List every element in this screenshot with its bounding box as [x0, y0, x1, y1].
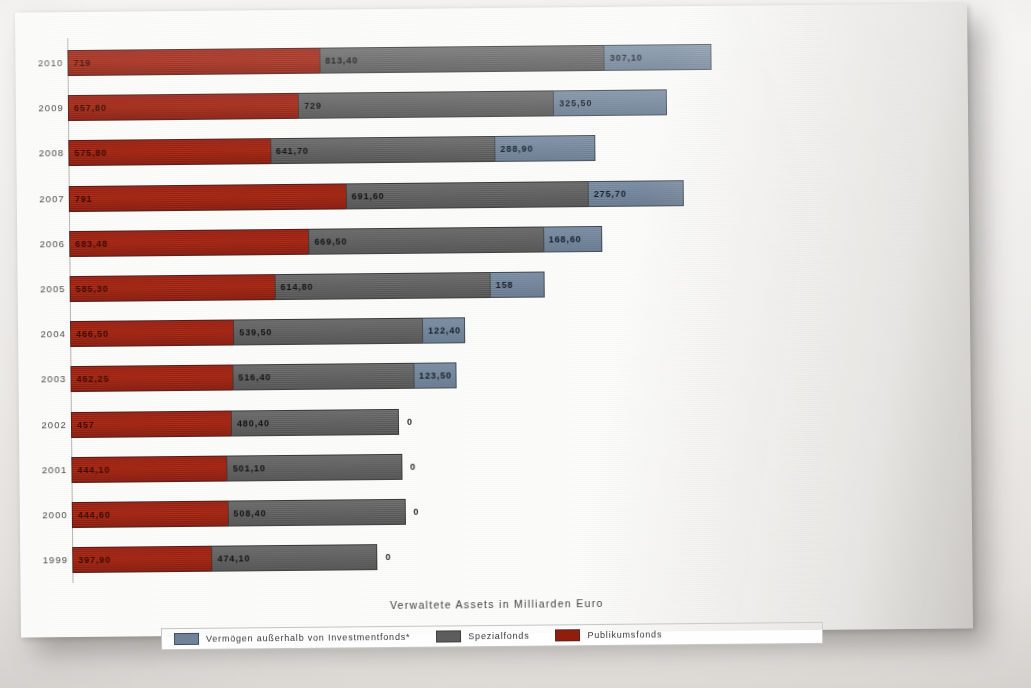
y-axis-label-2010: 2010: [17, 50, 63, 76]
bar-value-label: 480,40: [232, 418, 270, 428]
y-axis-label-2000: 2000: [22, 502, 68, 528]
bar-row: 444,60508,400: [72, 499, 419, 528]
bar-segment-blue[interactable]: 275,70: [588, 180, 685, 207]
bar-segment-grey[interactable]: 508,40: [227, 499, 405, 527]
bar-row: 719813,40307,10: [67, 44, 711, 76]
bar-segment-red[interactable]: 457: [71, 410, 231, 438]
bar-value-label: 641,70: [271, 146, 309, 156]
bar-value-label-zero: 0: [405, 499, 419, 525]
bar-segment-red[interactable]: 575,80: [68, 139, 270, 167]
bar-segment-red[interactable]: 466,50: [70, 320, 234, 348]
bar-row: 457480,400: [71, 408, 413, 437]
y-axis-label-2004: 2004: [20, 321, 66, 347]
legend-item-vermoegen[interactable]: Vermögen außerhalb von Investmentfonds*: [174, 631, 410, 645]
legend-item-spezialfonds[interactable]: Spezialfonds: [436, 630, 529, 643]
y-axis-label-1999: 1999: [22, 547, 68, 573]
bar-row: 462,25516,40123,50: [70, 363, 456, 393]
bar-value-label: 575,80: [69, 148, 107, 158]
y-axis-label-2009: 2009: [18, 95, 64, 121]
bar-value-label: 122,40: [423, 326, 461, 336]
bar-value-label: 791: [70, 193, 93, 203]
y-axis-label-2007: 2007: [19, 186, 65, 212]
y-axis-label-2005: 2005: [20, 276, 66, 302]
bar-row: 575,80641,70288,90: [68, 135, 595, 166]
bar-segment-red[interactable]: 444,10: [71, 455, 227, 482]
legend-swatch-grey-icon: [436, 630, 461, 642]
bar-segment-blue[interactable]: 158: [490, 272, 546, 299]
x-axis-title: Verwaltete Assets in Milliarden Euro: [21, 593, 973, 614]
bar-value-label-zero: 0: [377, 544, 391, 570]
photo-canvas: 2010719813,40307,102009657,80729325,5020…: [0, 0, 1031, 688]
legend-label-spezialfonds: Spezialfonds: [468, 631, 529, 642]
bar-row: 397,90474,100: [72, 544, 391, 573]
bar-value-label-zero: 0: [402, 454, 416, 480]
bar-value-label: 307,10: [605, 53, 643, 63]
bar-segment-grey[interactable]: 729: [298, 91, 553, 119]
bar-segment-red[interactable]: 462,25: [70, 365, 232, 393]
bar-value-label: 729: [299, 101, 322, 111]
bar-value-label: 123,50: [414, 371, 452, 381]
bar-value-label: 275,70: [589, 188, 627, 198]
bar-row: 657,80729325,50: [68, 90, 668, 122]
bar-segment-red[interactable]: 719: [67, 48, 319, 76]
bar-segment-red[interactable]: 444,60: [72, 501, 228, 528]
bar-value-label: 325,50: [554, 98, 592, 108]
bar-segment-blue[interactable]: 325,50: [553, 90, 667, 117]
bar-segment-red[interactable]: 657,80: [68, 93, 298, 121]
bar-segment-red[interactable]: 397,90: [72, 546, 211, 573]
bar-value-label: 444,10: [72, 464, 110, 474]
chart-legend: Vermögen außerhalb von Investmentfonds* …: [161, 622, 823, 650]
bar-segment-grey[interactable]: 669,50: [308, 226, 543, 254]
bar-value-label: 691,60: [347, 191, 385, 201]
bar-segment-grey[interactable]: 641,70: [270, 136, 495, 164]
bar-segment-grey[interactable]: 516,40: [232, 363, 413, 391]
bar-value-label: 516,40: [233, 373, 271, 383]
bar-segment-grey[interactable]: 480,40: [231, 409, 399, 437]
bar-segment-grey[interactable]: 474,10: [211, 544, 377, 572]
bar-value-label: 462,25: [71, 374, 109, 384]
bar-value-label: 466,50: [71, 329, 109, 339]
bar-segment-blue[interactable]: 123,50: [413, 363, 456, 389]
bar-segment-blue[interactable]: 168,60: [543, 226, 602, 253]
bar-row: 585,30614,80158: [70, 272, 546, 303]
bar-row: 466,50539,50122,40: [70, 317, 465, 347]
bar-value-label: 585,30: [71, 284, 109, 294]
y-axis-label-2008: 2008: [18, 141, 64, 167]
bar-segment-blue[interactable]: 307,10: [604, 44, 712, 71]
bar-row: 444,10501,100: [71, 454, 416, 483]
bar-segment-blue[interactable]: 122,40: [422, 317, 465, 343]
bar-value-label: 813,40: [320, 55, 358, 65]
bar-value-label: 397,90: [73, 555, 111, 565]
legend-label-publikumsfonds: Publikumsfonds: [587, 629, 662, 640]
stacked-bar-group: 2010719813,40307,102009657,80729325,5020…: [67, 30, 872, 583]
bar-value-label: 444,60: [73, 510, 111, 520]
bar-value-label: 158: [491, 280, 514, 290]
bar-segment-grey[interactable]: 501,10: [227, 454, 403, 482]
y-axis-label-2003: 2003: [20, 366, 66, 392]
bar-value-label-zero: 0: [399, 408, 413, 434]
bar-segment-grey[interactable]: 539,50: [233, 318, 422, 346]
bar-value-label: 719: [68, 58, 91, 68]
bar-segment-red[interactable]: 791: [69, 183, 346, 212]
bar-value-label: 669,50: [309, 236, 347, 246]
bar-row: 683,48669,50168,60: [69, 226, 602, 257]
legend-swatch-red-icon: [555, 629, 580, 641]
legend-label-vermoegen: Vermögen außerhalb von Investmentfonds*: [206, 632, 410, 644]
legend-item-publikumsfonds[interactable]: Publikumsfonds: [555, 628, 662, 641]
bar-value-label: 457: [72, 419, 95, 429]
bar-value-label: 614,80: [275, 282, 313, 292]
bar-segment-red[interactable]: 585,30: [70, 274, 275, 302]
bar-segment-grey[interactable]: 614,80: [274, 272, 489, 300]
bar-segment-blue[interactable]: 288,90: [494, 135, 595, 162]
bar-value-label: 539,50: [234, 327, 272, 337]
y-axis-label-2002: 2002: [21, 412, 67, 438]
bar-value-label: 683,48: [70, 238, 108, 248]
bar-value-label: 474,10: [212, 554, 250, 564]
bar-segment-red[interactable]: 683,48: [69, 229, 308, 257]
bar-value-label: 508,40: [228, 508, 266, 518]
bar-segment-grey[interactable]: 691,60: [346, 181, 588, 209]
y-axis-label-2001: 2001: [21, 457, 67, 483]
bar-segment-grey[interactable]: 813,40: [319, 45, 604, 74]
bar-value-label: 288,90: [495, 144, 533, 154]
document-sheet: 2010719813,40307,102009657,80729325,5020…: [15, 3, 973, 637]
